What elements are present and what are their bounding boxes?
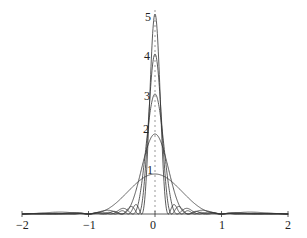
y-tick-label: 2 xyxy=(143,122,149,136)
y-tick-label: 3 xyxy=(144,89,150,103)
y-tick-label: 1 xyxy=(147,163,153,177)
x-tick-label: −1 xyxy=(83,218,96,232)
x-tick-label: 0 xyxy=(150,218,156,232)
x-tick-label: −2 xyxy=(16,218,29,232)
y-tick-label: 4 xyxy=(144,49,150,63)
x-tick-labels: −2 −1 0 1 2 xyxy=(16,218,291,232)
y-tick-label: 5 xyxy=(145,10,151,24)
curve-group xyxy=(22,14,288,214)
chart: −2 −1 0 1 2 1 2 3 4 5 xyxy=(0,0,307,238)
y-tick-labels: 1 2 3 4 5 xyxy=(143,10,153,177)
curve-n-5 xyxy=(22,14,288,214)
x-tick-label: 2 xyxy=(285,218,291,232)
x-tick-label: 1 xyxy=(219,218,225,232)
